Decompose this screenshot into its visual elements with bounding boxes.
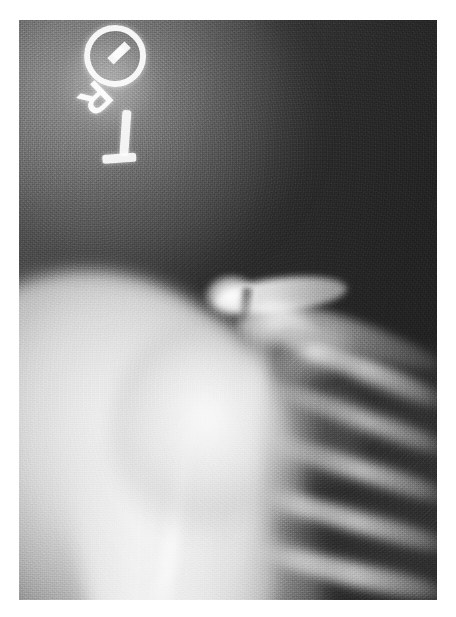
radiograph-figure: R <box>19 20 437 600</box>
radiograph-image: R <box>19 20 437 600</box>
film-vignette <box>19 20 437 600</box>
figure-caption <box>0 0 1 1</box>
